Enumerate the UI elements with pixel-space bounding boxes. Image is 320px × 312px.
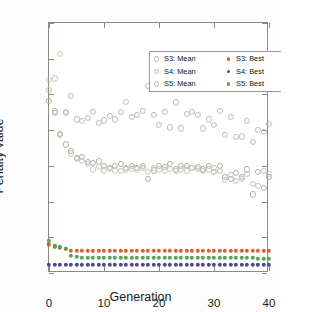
data-point xyxy=(201,248,205,252)
data-point xyxy=(107,248,111,252)
data-point xyxy=(124,263,128,267)
legend-label: S4: Mean xyxy=(164,68,196,75)
data-point xyxy=(255,127,261,133)
data-point xyxy=(140,256,144,260)
y-tick xyxy=(262,94,267,95)
x-axis-label: Generation xyxy=(110,290,172,304)
data-point xyxy=(194,112,200,118)
data-point xyxy=(249,181,255,187)
legend-entry-s5-best: S5: Best xyxy=(224,80,281,87)
data-point xyxy=(57,132,63,138)
data-point xyxy=(85,256,89,260)
data-point xyxy=(91,248,95,252)
data-point xyxy=(95,164,101,170)
data-point xyxy=(69,254,73,258)
data-point xyxy=(223,256,227,260)
data-point xyxy=(261,257,265,261)
data-point xyxy=(167,161,173,167)
legend-entry-s3-mean: S3: Mean xyxy=(152,55,224,62)
data-point xyxy=(79,118,85,124)
data-point xyxy=(211,122,217,128)
data-point xyxy=(68,148,74,154)
data-point xyxy=(80,256,84,260)
data-point xyxy=(194,165,200,171)
data-point xyxy=(245,263,249,267)
data-point xyxy=(107,263,111,267)
data-point xyxy=(57,51,63,57)
data-point xyxy=(222,173,228,179)
data-point xyxy=(123,98,129,104)
data-point xyxy=(107,256,111,260)
data-point xyxy=(117,168,123,174)
data-point xyxy=(195,263,199,267)
data-point xyxy=(183,163,189,169)
y-tick xyxy=(262,202,267,203)
data-point xyxy=(73,116,79,122)
data-point xyxy=(245,248,249,252)
plot-area: S3: Mean S3: Best S4: Mean S4: Best S5: … xyxy=(48,22,268,272)
data-point xyxy=(223,248,227,252)
data-point xyxy=(200,125,206,131)
chart-legend: S3: Mean S3: Best S4: Mean S4: Best S5: … xyxy=(149,51,281,92)
data-point xyxy=(183,167,189,173)
x-tick xyxy=(159,266,160,271)
legend-entry-s4-best: S4: Best xyxy=(224,68,281,75)
data-point xyxy=(139,165,145,171)
data-point xyxy=(238,176,244,182)
data-point xyxy=(201,263,205,267)
data-point xyxy=(129,263,133,267)
data-point xyxy=(228,248,232,252)
x-tick xyxy=(269,23,270,28)
data-point xyxy=(151,263,155,267)
data-point xyxy=(239,256,243,260)
data-point xyxy=(134,165,140,171)
data-point xyxy=(123,165,129,171)
data-point xyxy=(234,248,238,252)
data-point xyxy=(157,256,161,260)
data-point xyxy=(102,256,106,260)
data-point xyxy=(266,121,272,127)
open-circle-icon xyxy=(152,56,161,61)
x-tick-label: 0 xyxy=(46,297,52,309)
data-point xyxy=(223,263,227,267)
data-point xyxy=(161,167,167,173)
data-point xyxy=(168,248,172,252)
data-point xyxy=(74,255,78,259)
x-tick-label: 30 xyxy=(208,297,221,309)
data-point xyxy=(249,191,255,197)
data-point xyxy=(260,168,266,174)
legend-entry-s4-mean: S4: Mean xyxy=(152,68,224,75)
data-point xyxy=(150,167,156,173)
data-point xyxy=(189,109,195,115)
data-point xyxy=(151,256,155,260)
data-point xyxy=(113,256,117,260)
data-point xyxy=(194,164,200,170)
x-tick xyxy=(159,23,160,28)
data-point xyxy=(255,169,261,175)
data-point xyxy=(146,263,150,267)
y-tick xyxy=(49,166,54,167)
data-point xyxy=(217,248,221,252)
data-point xyxy=(151,248,155,252)
x-tick xyxy=(104,23,105,28)
legend-label: S3: Best xyxy=(236,55,264,62)
data-point xyxy=(74,248,78,252)
x-tick xyxy=(269,266,270,271)
data-point xyxy=(267,257,271,261)
data-point xyxy=(129,256,133,260)
data-point xyxy=(106,165,112,171)
data-point xyxy=(178,166,184,172)
data-point xyxy=(178,125,184,131)
open-circle-icon xyxy=(152,69,161,74)
data-point xyxy=(46,77,52,83)
data-point xyxy=(233,170,239,176)
data-point xyxy=(150,165,156,171)
data-point xyxy=(135,256,139,260)
data-point xyxy=(150,112,156,118)
y-tick xyxy=(49,237,54,238)
data-point xyxy=(179,256,183,260)
data-point xyxy=(102,248,106,252)
data-point xyxy=(172,168,178,174)
legend-label: S3: Mean xyxy=(164,55,196,62)
data-point xyxy=(233,178,239,184)
